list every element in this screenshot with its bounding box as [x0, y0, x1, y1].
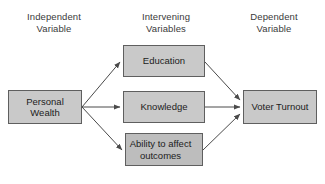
node-education-label: Education [143, 55, 185, 67]
node-knowledge-label: Knowledge [140, 101, 187, 113]
node-ability-to-affect-outcomes: Ability to affect outcomes [125, 133, 203, 166]
node-voter-turnout: Voter Turnout [243, 90, 317, 124]
node-voter-turnout-label: Voter Turnout [251, 101, 308, 113]
edge-wealth-to-ability [82, 107, 122, 150]
node-personal-wealth-label: Personal Wealth [26, 96, 64, 119]
edge-ability-to-voter-turnout [203, 114, 240, 150]
node-knowledge: Knowledge [123, 91, 205, 123]
node-ability-to-affect-outcomes-label: Ability to affect outcomes [119, 138, 202, 161]
edge-wealth-to-education [82, 62, 120, 107]
node-personal-wealth: Personal Wealth [8, 90, 82, 124]
diagram-canvas: Independent Variable Intervening Variabl… [0, 0, 325, 184]
node-education: Education [123, 45, 205, 77]
edge-education-to-voter-turnout [205, 62, 240, 100]
